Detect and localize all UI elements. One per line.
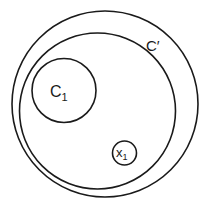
c1-label-subscript: 1 bbox=[62, 91, 68, 103]
c1-label: C1 bbox=[50, 83, 68, 103]
x1-label-subscript: 1 bbox=[123, 152, 128, 162]
c-prime-circle bbox=[20, 33, 176, 189]
x1-label: x1 bbox=[116, 145, 128, 162]
c1-label-main: C bbox=[50, 83, 62, 100]
nested-sets-diagram: C′ C1 x1 bbox=[0, 0, 210, 210]
c-prime-label: C′ bbox=[146, 37, 160, 54]
outer-set-circle bbox=[12, 11, 198, 197]
